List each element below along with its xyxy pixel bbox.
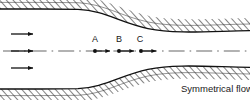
station-labels-group: A B C [92,34,144,44]
upper-wall-group [0,2,250,32]
station-point-c [139,49,143,53]
flow-diagram-figure: A B C Symmetrical flow [0,0,250,100]
station-point-b [117,49,121,53]
station-label-c: C [137,34,144,44]
station-point-a [93,49,97,53]
station-label-b: B [116,34,122,44]
inlet-arrows-group [11,34,33,68]
station-markers-group [93,49,156,53]
flow-diagram-canvas: A B C Symmetrical flow [0,0,250,100]
figure-caption: Symmetrical flow [181,83,250,94]
station-label-a: A [92,34,98,44]
